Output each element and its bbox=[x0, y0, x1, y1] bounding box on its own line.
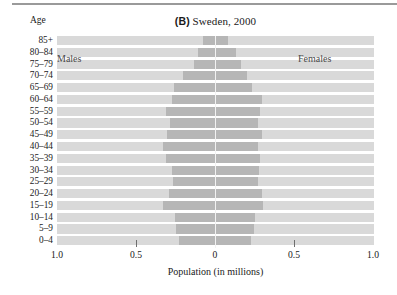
bar-males bbox=[183, 71, 215, 80]
bar-females bbox=[215, 107, 260, 116]
age-tick-label: 65–69 bbox=[9, 83, 53, 92]
zero-axis-line bbox=[215, 36, 216, 248]
plot-area bbox=[57, 36, 374, 248]
bar-males bbox=[203, 36, 215, 45]
x-tick-label: 1.0 bbox=[51, 249, 63, 260]
age-tick-label: 10–14 bbox=[9, 213, 53, 222]
age-tick-label: 50–54 bbox=[9, 118, 53, 127]
bar-females bbox=[215, 201, 263, 210]
bar-females bbox=[215, 36, 228, 45]
bar-females bbox=[215, 189, 262, 198]
x-tick-label: 0 bbox=[213, 249, 218, 260]
x-tick-label: 1.0 bbox=[367, 249, 379, 260]
bar-males bbox=[172, 166, 215, 175]
age-tick-label: 25–29 bbox=[9, 177, 53, 186]
bar-females bbox=[215, 48, 236, 57]
chart-title: (B) Sweden, 2000 bbox=[57, 15, 374, 27]
x-tick-label: 0.5 bbox=[130, 249, 142, 260]
bar-females bbox=[215, 130, 262, 139]
bar-males bbox=[179, 236, 215, 245]
bar-females bbox=[215, 213, 255, 222]
bar-males bbox=[166, 107, 215, 116]
bar-males bbox=[173, 177, 215, 186]
age-tick-label: 85+ bbox=[9, 36, 53, 45]
bar-females bbox=[215, 95, 262, 104]
bar-females bbox=[215, 236, 251, 245]
age-tick-label: 35–39 bbox=[9, 154, 53, 163]
bar-males bbox=[172, 95, 215, 104]
age-tick-label: 70–74 bbox=[9, 71, 53, 80]
bar-females bbox=[215, 60, 241, 69]
panel-tag: (B) bbox=[175, 15, 190, 27]
bar-males bbox=[176, 224, 215, 233]
bar-males bbox=[198, 48, 215, 57]
x-axis: 1.00.500.51.0 bbox=[57, 248, 374, 268]
age-tick-label: 40–44 bbox=[9, 142, 53, 151]
bar-females bbox=[215, 118, 258, 127]
age-tick-label: 45–49 bbox=[9, 130, 53, 139]
age-tick-label: 0–4 bbox=[9, 236, 53, 245]
x-tick-mark bbox=[136, 240, 137, 247]
series-label-males: Males bbox=[57, 53, 81, 64]
age-axis-caption: Age bbox=[30, 15, 46, 25]
age-tick-label: 30–34 bbox=[9, 166, 53, 175]
bar-females bbox=[215, 142, 258, 151]
chart-title-text: Sweden, 2000 bbox=[193, 15, 257, 27]
age-tick-label: 80–84 bbox=[9, 48, 53, 57]
bar-males bbox=[174, 83, 215, 92]
bar-males bbox=[169, 189, 215, 198]
series-label-females: Females bbox=[298, 53, 331, 64]
age-tick-label: 60–64 bbox=[9, 95, 53, 104]
bar-males bbox=[167, 130, 215, 139]
age-tick-label: 5–9 bbox=[9, 224, 53, 233]
bar-females bbox=[215, 166, 259, 175]
figure-top-rule bbox=[12, 3, 397, 5]
population-pyramid-figure: Age (B) Sweden, 2000 85+80–8475–7970–746… bbox=[0, 0, 397, 295]
x-tick-label: 0.5 bbox=[288, 249, 300, 260]
bar-females bbox=[215, 177, 258, 186]
x-tick-mark bbox=[294, 240, 295, 247]
age-tick-label: 20–24 bbox=[9, 189, 53, 198]
x-axis-title: Population (in millions) bbox=[57, 266, 374, 277]
age-tick-label: 15–19 bbox=[9, 201, 53, 210]
bar-males bbox=[166, 154, 215, 163]
age-axis-labels: 85+80–8475–7970–7465–6960–6455–5950–5445… bbox=[8, 36, 53, 248]
bar-males bbox=[170, 118, 215, 127]
age-tick-label: 55–59 bbox=[9, 107, 53, 116]
age-tick-label: 75–79 bbox=[9, 60, 53, 69]
bar-females bbox=[215, 224, 254, 233]
bar-males bbox=[194, 60, 215, 69]
bar-females bbox=[215, 83, 252, 92]
bar-males bbox=[175, 213, 215, 222]
bar-females bbox=[215, 154, 260, 163]
bar-males bbox=[163, 142, 215, 151]
bar-males bbox=[163, 201, 215, 210]
bar-females bbox=[215, 71, 247, 80]
